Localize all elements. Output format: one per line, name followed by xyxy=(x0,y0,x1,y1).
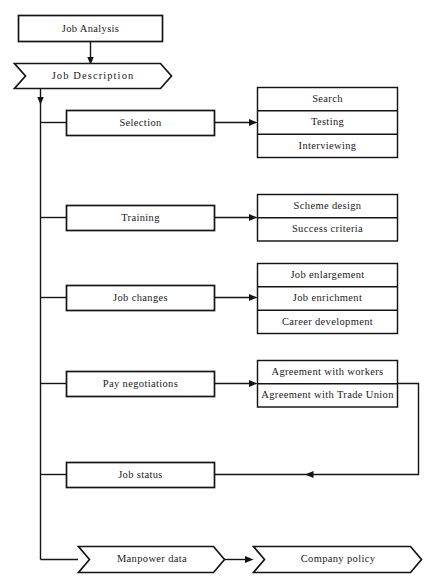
node-training[interactable]: Training xyxy=(67,206,215,231)
arrowhead-pay-negotiations-to-outputs xyxy=(249,380,258,387)
group-job-changes-outputs: Job enlargement Job enrichment Career de… xyxy=(258,264,398,334)
job-status-label: Job status xyxy=(118,469,163,480)
arrowhead-selection-to-outputs xyxy=(249,119,258,126)
company-policy-label: Company policy xyxy=(301,553,376,564)
pay-output-agreement-workers: Agreement with workers xyxy=(271,366,383,377)
job-changes-output-career-development: Career development xyxy=(282,316,373,327)
flowchart-diagram: Job Analysis Job Description Selection S… xyxy=(0,0,435,588)
selection-output-testing: Testing xyxy=(311,116,345,127)
node-job-description[interactable]: Job Description xyxy=(15,64,172,89)
flowchart-canvas: Job Analysis Job Description Selection S… xyxy=(0,0,435,588)
group-selection-outputs: Search Testing Interviewing xyxy=(258,88,398,158)
pay-output-agreement-trade-union: Agreement with Trade Union xyxy=(261,389,394,400)
node-job-changes[interactable]: Job changes xyxy=(67,286,215,311)
job-description-label: Job Description xyxy=(52,70,135,81)
training-label: Training xyxy=(121,212,160,223)
node-pay-negotiations[interactable]: Pay negotiations xyxy=(67,372,215,397)
node-manpower-data[interactable]: Manpower data xyxy=(79,547,225,573)
selection-output-search: Search xyxy=(312,93,343,104)
node-selection[interactable]: Selection xyxy=(67,111,215,136)
pay-negotiations-label: Pay negotiations xyxy=(103,378,178,389)
selection-output-interviewing: Interviewing xyxy=(299,140,357,151)
group-training-outputs: Scheme design Success criteria xyxy=(258,195,398,242)
training-output-scheme-design: Scheme design xyxy=(294,200,362,211)
group-pay-negotiations-outputs: Agreement with workers Agreement with Tr… xyxy=(258,361,398,408)
training-output-success-criteria: Success criteria xyxy=(292,223,363,234)
arrowhead-job-changes-to-outputs xyxy=(249,294,258,301)
job-changes-output-enlargement: Job enlargement xyxy=(290,269,364,280)
arrowhead-feedback-to-job-status xyxy=(305,471,314,478)
job-analysis-label: Job Analysis xyxy=(62,23,120,34)
selection-label: Selection xyxy=(119,117,162,128)
job-changes-output-enrichment: Job enrichment xyxy=(293,292,362,303)
node-job-status[interactable]: Job status xyxy=(67,463,215,488)
node-company-policy[interactable]: Company policy xyxy=(254,547,422,573)
job-changes-label: Job changes xyxy=(113,292,168,303)
manpower-data-label: Manpower data xyxy=(117,553,187,564)
node-job-analysis[interactable]: Job Analysis xyxy=(19,16,163,42)
arrowhead-training-to-outputs xyxy=(249,214,258,221)
arrowhead-manpower-to-company-policy xyxy=(245,556,254,563)
